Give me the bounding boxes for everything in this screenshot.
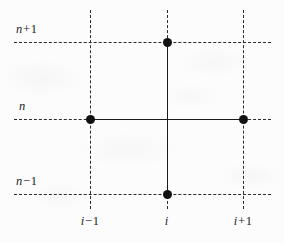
x-axis-label-i-plus-1-operator: + <box>237 214 245 228</box>
y-axis-label-n-operator <box>25 99 26 113</box>
node-left <box>86 115 95 124</box>
y-axis-label-n-minus-1-number: 1 <box>31 174 37 188</box>
y-axis-label-n-plus-1: n+1 <box>16 22 37 37</box>
grid-line-horizontal-n-plus-1 <box>14 42 271 43</box>
node-bottom <box>163 190 172 199</box>
x-axis-label-i-minus-1-number: 1 <box>93 214 99 228</box>
x-axis-label-i-operator <box>168 214 169 228</box>
stencil-arm-horizontal <box>90 119 243 120</box>
x-axis-label-i-plus-1: i+1 <box>234 214 252 229</box>
x-axis-label-i-plus-1-number: 1 <box>246 214 252 228</box>
node-right <box>239 115 248 124</box>
grid-line-vertical-i-plus-1 <box>243 10 244 209</box>
y-axis-label-n-plus-1-number: 1 <box>31 22 37 36</box>
x-axis-label-i-minus-1: i−1 <box>81 214 99 229</box>
node-top <box>163 38 172 47</box>
grid-line-vertical-i-minus-1 <box>90 10 91 209</box>
grid-line-horizontal-n-minus-1 <box>14 194 271 195</box>
stencil-figure: n+1 n n−1 i−1 i i+1 <box>0 0 284 243</box>
y-axis-label-n-minus-1: n−1 <box>16 174 37 189</box>
y-axis-label-n-minus-1-operator: − <box>22 174 30 188</box>
y-axis-label-n-plus-1-operator: + <box>22 22 30 36</box>
x-axis-label-i-minus-1-operator: − <box>84 214 92 228</box>
stencil-arm-vertical <box>167 42 168 194</box>
x-axis-label-i: i <box>165 214 170 229</box>
y-axis-label-n: n <box>19 99 26 114</box>
